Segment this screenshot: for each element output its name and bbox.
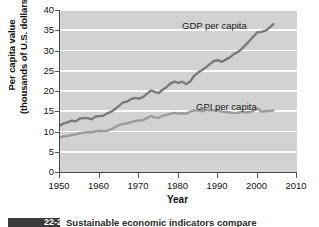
x-tick-mark xyxy=(138,173,139,178)
figure-caption: 22-2 Sustainable economic indicators com… xyxy=(0,218,319,227)
line-gpi-per-capita xyxy=(60,108,273,137)
x-tick-mark xyxy=(257,173,258,178)
y-tick-mark xyxy=(55,30,59,31)
series-lines xyxy=(60,10,297,172)
y-tick-mark xyxy=(55,71,59,72)
y-tick-label: 25 xyxy=(34,66,54,76)
caption-number: 22-2 xyxy=(44,218,62,227)
y-tick-mark xyxy=(55,132,59,133)
x-tick-label: 2000 xyxy=(237,180,277,191)
caption-text: Sustainable economic indicators compare xyxy=(66,218,257,227)
x-tick-mark xyxy=(296,173,297,178)
gpi-series-label: GPI per capita xyxy=(196,101,257,112)
x-tick-mark xyxy=(217,173,218,178)
x-tick-mark xyxy=(178,173,179,178)
y-axis-title-line1: Per capita value xyxy=(6,0,18,130)
x-axis-title: Year xyxy=(59,194,296,205)
x-tick-label: 1980 xyxy=(158,180,198,191)
y-tick-label: 15 xyxy=(34,106,54,116)
y-tick-mark xyxy=(55,10,59,11)
y-tick-label: 20 xyxy=(34,86,54,96)
y-tick-label: 40 xyxy=(34,5,54,15)
y-tick-mark xyxy=(55,152,59,153)
y-tick-label: 30 xyxy=(34,46,54,56)
y-tick-label: 0 xyxy=(34,167,54,177)
y-axis-title-line2: (thousands of U.S. dollars) xyxy=(18,0,30,130)
x-tick-mark xyxy=(99,173,100,178)
y-tick-mark xyxy=(55,111,59,112)
y-axis-ticks: 0510152025303540 xyxy=(33,0,54,227)
y-tick-label: 5 xyxy=(34,147,54,157)
chart-figure: Per capita value (thousands of U.S. doll… xyxy=(0,0,319,227)
y-tick-mark xyxy=(55,91,59,92)
x-tick-label: 1960 xyxy=(79,180,119,191)
x-tick-label: 1950 xyxy=(39,180,79,191)
x-tick-mark xyxy=(59,173,60,178)
plot-area xyxy=(59,10,297,173)
x-tick-label: 1990 xyxy=(197,180,237,191)
y-tick-label: 35 xyxy=(34,25,54,35)
y-tick-label: 10 xyxy=(34,127,54,137)
x-tick-label: 1970 xyxy=(118,180,158,191)
y-tick-mark xyxy=(55,51,59,52)
gdp-series-label: GDP per capita xyxy=(182,20,247,31)
x-tick-label: 2010 xyxy=(276,180,316,191)
